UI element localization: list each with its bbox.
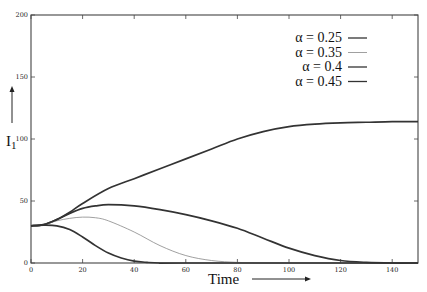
chart-canvas: 020406080100120140050100150200 α = 0.25α… — [0, 0, 427, 292]
axis-labels: Time I1 — [6, 86, 311, 287]
y-tick-label: 100 — [16, 135, 28, 143]
series-line-3 — [31, 225, 418, 263]
x-tick-label: 120 — [334, 266, 346, 274]
legend-label: α = 0.25 — [295, 30, 342, 45]
legend-label: α = 0.35 — [295, 45, 342, 60]
x-tick-label: 100 — [283, 266, 295, 274]
x-axis-title: Time — [208, 271, 239, 287]
y-axis-arrow — [10, 86, 15, 123]
axes: 020406080100120140050100150200 — [16, 11, 418, 274]
series-lines — [31, 122, 418, 263]
legend-label: α = 0.45 — [295, 74, 342, 89]
y-tick-label: 150 — [16, 73, 28, 81]
x-tick-label: 40 — [130, 266, 138, 274]
x-tick-label: 60 — [182, 266, 190, 274]
legend: α = 0.25α = 0.35α = 0.4α = 0.45 — [295, 30, 367, 89]
series-line-2 — [31, 205, 418, 263]
x-tick-label: 140 — [386, 266, 398, 274]
y-tick-label: 50 — [20, 197, 28, 205]
legend-label: α = 0.4 — [302, 59, 342, 74]
x-tick-label: 20 — [78, 266, 86, 274]
y-tick-label: 200 — [16, 11, 28, 19]
y-tick-label: 0 — [24, 259, 28, 267]
series-line-0 — [31, 122, 418, 226]
x-axis-arrow — [252, 277, 311, 282]
x-tick-label: 0 — [29, 266, 33, 274]
